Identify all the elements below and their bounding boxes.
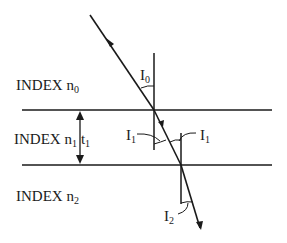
angle-label-i1-left: I1: [126, 127, 136, 145]
medium-label-n1: INDEX n1t1: [14, 131, 90, 149]
incident-ray: [90, 15, 154, 110]
angle-arc-i0: [141, 86, 154, 88]
angle-label-i2: I2: [164, 208, 174, 226]
emergent-ray: [181, 165, 200, 228]
medium-label-n2: INDEX n2: [16, 188, 79, 206]
angle-label-i0: I0: [140, 67, 150, 85]
ray-arrow-icon-1: [106, 38, 114, 47]
thickness-arrow-up-icon: [76, 111, 84, 120]
thickness-arrow-down-icon: [76, 155, 84, 164]
leader-i1-left: [137, 134, 160, 141]
angle-arc-i2: [181, 202, 193, 203]
ray-arrow-icon-3: [196, 221, 203, 230]
refracted-ray: [154, 110, 181, 165]
angle-label-i1-right: I1: [200, 127, 210, 145]
refraction-diagram: INDEX n0 INDEX n1t1 INDEX n2 I0 I1 I1 I2: [0, 0, 287, 243]
medium-label-n0: INDEX n0: [16, 77, 79, 95]
leader-i2: [178, 203, 188, 214]
